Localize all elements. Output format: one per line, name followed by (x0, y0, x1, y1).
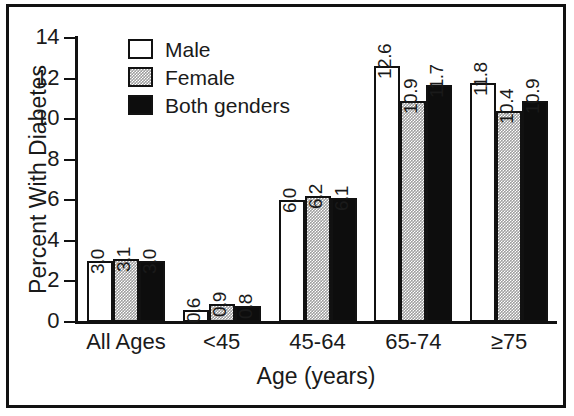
chart-legend: MaleFemaleBoth genders (128, 36, 290, 120)
bar-value-label: 3.0 (140, 249, 159, 274)
legend-swatch-icon (128, 67, 153, 87)
chart-plot-area: 02468101214 Percent With Diabetes 3.03.1… (0, 0, 574, 416)
x-axis-category-label: All Ages (78, 330, 174, 354)
x-axis-category-label: <45 (174, 330, 270, 354)
bar-value-label: 10.4 (497, 89, 516, 124)
legend-item: Male (128, 36, 290, 62)
bar-value-label: 11.8 (471, 62, 490, 96)
bar (279, 200, 305, 322)
x-axis-title: Age (years) (75, 364, 557, 389)
bar-value-label: 3.0 (88, 249, 107, 274)
bar (374, 66, 400, 322)
bar-value-label: 10.9 (401, 79, 420, 114)
bar-value-label: 0.9 (210, 292, 229, 317)
bar (496, 111, 522, 322)
bar-value-label: 0.8 (236, 294, 255, 319)
bar (331, 198, 357, 322)
bar (522, 101, 548, 322)
bar-value-label: 3.1 (114, 247, 133, 272)
bar (470, 83, 496, 322)
bar (305, 196, 331, 322)
x-axis-category-label: 65-74 (365, 330, 461, 354)
bar-value-label: 0.6 (184, 298, 203, 323)
legend-item-label: Both genders (165, 95, 290, 116)
legend-item-label: Male (165, 39, 211, 60)
legend-item: Both genders (128, 92, 290, 118)
bar-value-label: 6.1 (332, 186, 351, 211)
bar-value-label: 10.9 (523, 79, 542, 114)
legend-item: Female (128, 64, 290, 90)
bar-value-label: 6.0 (280, 188, 299, 213)
bar-value-label: 12.6 (375, 44, 394, 79)
legend-swatch-icon (128, 39, 153, 59)
bar (426, 85, 452, 322)
x-axis-category-label: 45-64 (270, 330, 366, 354)
x-axis-category-label: ≥75 (461, 330, 557, 354)
legend-item-label: Female (165, 67, 235, 88)
bar-value-label: 11.7 (427, 64, 446, 98)
bar-value-label: 6.2 (306, 184, 325, 209)
legend-swatch-icon (128, 95, 153, 115)
bar (400, 101, 426, 322)
